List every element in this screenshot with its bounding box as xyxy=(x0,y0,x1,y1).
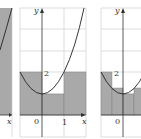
right-rect-1 xyxy=(101,72,112,115)
left-panel-x-label: x xyxy=(7,117,12,126)
right-y-label: y xyxy=(114,6,120,15)
middle-rect-2 xyxy=(42,94,64,115)
middle-x-tick-1: 1 xyxy=(62,118,67,127)
right-rect-3 xyxy=(123,94,134,115)
right-y-tick-2: 2 xyxy=(114,69,119,78)
middle-panel: y 2 0 1 x xyxy=(20,6,87,137)
right-panel: y 2 0 xyxy=(101,6,141,137)
middle-y-arrow-icon xyxy=(40,8,44,13)
left-panel: x xyxy=(0,8,12,137)
right-y-arrow-icon xyxy=(121,8,125,13)
right-rect-4 xyxy=(134,88,141,115)
right-rect-2 xyxy=(112,88,123,115)
right-origin-label: 0 xyxy=(115,117,120,126)
middle-rect-3 xyxy=(64,72,86,115)
riemann-sum-figure: x y 2 0 1 x xyxy=(0,0,141,139)
middle-y-tick-2: 2 xyxy=(44,69,49,78)
middle-x-label: x xyxy=(82,117,87,126)
middle-origin-label: 0 xyxy=(34,117,39,126)
left-panel-shaded-area xyxy=(0,8,12,115)
middle-y-label: y xyxy=(33,6,39,15)
